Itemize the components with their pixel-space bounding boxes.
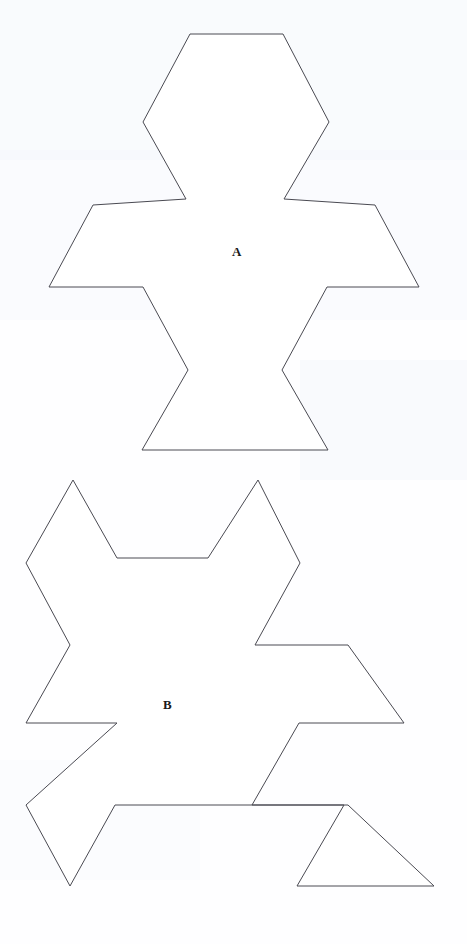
tessellation-figure-svg: Two outline tessellation tiles labelled …: [0, 0, 467, 944]
page-canvas: Two outline tessellation tiles labelled …: [0, 0, 467, 944]
tile-b-label: B: [163, 697, 172, 713]
tile-a-label: A: [232, 244, 242, 260]
tile-b-outline[interactable]: [26, 480, 434, 886]
tile-a-outline[interactable]: [49, 34, 419, 450]
